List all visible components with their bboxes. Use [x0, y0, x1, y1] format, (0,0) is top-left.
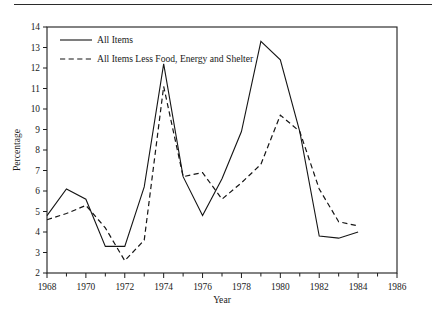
y-tick-label: 13: [31, 43, 41, 53]
figure-container: 234567891011121314 196819701972197419761…: [0, 0, 440, 323]
y-tick-label: 4: [35, 227, 40, 237]
y-tick-label: 11: [31, 84, 40, 94]
data-series-group: [47, 41, 358, 260]
x-tick-label: 1980: [271, 282, 290, 292]
legend: All Items All Items Less Food, Energy an…: [60, 34, 254, 64]
series-line-all-items-less-food-energy-shelter: [47, 86, 358, 260]
y-tick-label: 8: [35, 145, 40, 155]
x-tick-label: 1982: [310, 282, 329, 292]
y-tick-label: 12: [31, 63, 41, 73]
x-tick-label: 1970: [77, 282, 96, 292]
y-axis-ticks: [43, 27, 47, 273]
y-tick-label: 2: [35, 268, 40, 278]
x-axis-ticks: [47, 273, 397, 278]
x-axis-tick-labels: 1968197019721974197619781980198219841986: [38, 282, 407, 292]
y-tick-label: 10: [31, 104, 41, 114]
y-tick-label: 5: [35, 207, 40, 217]
x-tick-label: 1968: [38, 282, 57, 292]
x-tick-label: 1976: [193, 282, 212, 292]
legend-label-all-items-less-food-energy-shelter: All Items Less Food, Energy and Shelter: [97, 53, 254, 64]
x-tick-label: 1972: [115, 282, 134, 292]
y-tick-label: 7: [35, 166, 40, 176]
legend-label-all-items: All Items: [97, 34, 133, 45]
x-tick-label: 1984: [349, 282, 368, 292]
y-axis-tick-labels: 234567891011121314: [31, 22, 41, 278]
y-tick-label: 3: [35, 248, 40, 258]
x-axis-title: Year: [213, 294, 231, 305]
x-tick-label: 1986: [388, 282, 407, 292]
series-line-all-items: [47, 41, 358, 246]
y-tick-label: 14: [31, 22, 41, 32]
x-tick-label: 1978: [232, 282, 251, 292]
x-tick-label: 1974: [154, 282, 173, 292]
y-tick-label: 6: [35, 186, 40, 196]
line-chart: 234567891011121314 196819701972197419761…: [0, 0, 440, 323]
y-axis-title: Percentage: [11, 129, 22, 171]
y-tick-label: 9: [35, 125, 40, 135]
